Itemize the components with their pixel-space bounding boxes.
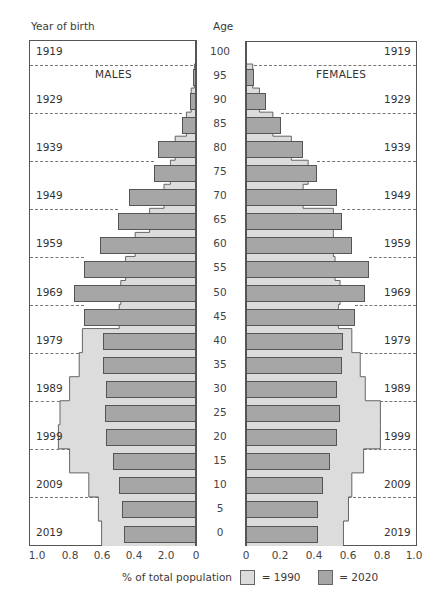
bar-female-2020 bbox=[246, 93, 266, 110]
year-of-birth-label-female: 1969 bbox=[384, 286, 411, 298]
bar-female-2020 bbox=[246, 453, 330, 470]
x-tick-male: 2.0 bbox=[151, 549, 181, 561]
legend-label-2020: = 2020 bbox=[339, 571, 378, 583]
bar-female-2020 bbox=[246, 285, 365, 302]
bar-male-2020 bbox=[124, 526, 196, 543]
bar-female-2020 bbox=[246, 357, 342, 374]
females-label: FEMALES bbox=[316, 68, 366, 80]
age-tick-label: 65 bbox=[200, 213, 240, 225]
year-of-birth-label-female: 1999 bbox=[384, 430, 411, 442]
age-tick-label: 75 bbox=[200, 165, 240, 177]
age-tick-label: 85 bbox=[200, 117, 240, 129]
x-tick-male: 0 bbox=[181, 549, 211, 561]
bar-female-2020 bbox=[246, 309, 355, 326]
age-tick-label: 40 bbox=[200, 334, 240, 346]
bar-male-2020 bbox=[158, 141, 196, 158]
year-of-birth-label-female: 1919 bbox=[384, 45, 411, 57]
age-tick-label: 70 bbox=[200, 189, 240, 201]
year-of-birth-label-female: 1949 bbox=[384, 189, 411, 201]
x-tick-male: 1.0 bbox=[22, 549, 52, 561]
bar-male-2020 bbox=[103, 357, 196, 374]
bar-male-2020 bbox=[74, 285, 196, 302]
x-tick-female: 0.4 bbox=[299, 549, 329, 561]
bar-female-2020 bbox=[246, 333, 343, 350]
bar-female-2020 bbox=[246, 477, 323, 494]
year-of-birth-label-female: 2019 bbox=[384, 526, 411, 538]
bar-female-2020 bbox=[246, 165, 317, 182]
males-label: MALES bbox=[95, 68, 132, 80]
bar-female-2020 bbox=[246, 429, 337, 446]
bar-male-2020 bbox=[106, 429, 196, 446]
x-tick-female: 0 bbox=[231, 549, 261, 561]
legend-swatch-2020 bbox=[318, 570, 333, 585]
age-tick-label: 0 bbox=[200, 526, 240, 538]
year-of-birth-label-male: 1959 bbox=[36, 237, 63, 249]
year-of-birth-label-female: 1959 bbox=[384, 237, 411, 249]
bar-female-2020 bbox=[246, 526, 318, 543]
x-tick-female: 0.6 bbox=[333, 549, 363, 561]
legend-title: % of total population bbox=[122, 571, 232, 583]
bar-female-2020 bbox=[246, 381, 337, 398]
age-tick-label: 80 bbox=[200, 141, 240, 153]
year-of-birth-label-female: 1989 bbox=[384, 382, 411, 394]
year-of-birth-label-male: 1929 bbox=[36, 93, 63, 105]
year-of-birth-label-male: 2019 bbox=[36, 526, 63, 538]
age-tick-label: 60 bbox=[200, 237, 240, 249]
bar-male-2020 bbox=[106, 381, 196, 398]
age-tick-label: 95 bbox=[200, 69, 240, 81]
age-tick-label: 20 bbox=[200, 430, 240, 442]
age-tick-label: 15 bbox=[200, 454, 240, 466]
bar-male-2020 bbox=[105, 405, 196, 422]
age-tick-label: 45 bbox=[200, 310, 240, 322]
bar-male-2020 bbox=[118, 213, 196, 230]
bar-female-2020 bbox=[246, 117, 281, 134]
x-tick-female: 0.8 bbox=[367, 549, 397, 561]
x-tick-female: 0.2 bbox=[265, 549, 295, 561]
year-of-birth-label-female: 1939 bbox=[384, 141, 411, 153]
bar-male-2020 bbox=[84, 309, 196, 326]
year-of-birth-label-male: 2009 bbox=[36, 478, 63, 490]
age-tick-label: 5 bbox=[200, 502, 240, 514]
bar-female-2020 bbox=[246, 237, 352, 254]
year-of-birth-label-male: 1949 bbox=[36, 189, 63, 201]
age-tick-label: 55 bbox=[200, 261, 240, 273]
year-of-birth-label-male: 1939 bbox=[36, 141, 63, 153]
legend-swatch-1990 bbox=[240, 570, 255, 585]
bar-male-2020 bbox=[100, 237, 196, 254]
x-tick-male: 0.8 bbox=[55, 549, 85, 561]
year-of-birth-label-male: 1989 bbox=[36, 382, 63, 394]
year-of-birth-label-female: 1929 bbox=[384, 93, 411, 105]
x-tick-male: 0.6 bbox=[87, 549, 117, 561]
bar-female-2020 bbox=[246, 261, 369, 278]
bar-male-2020 bbox=[113, 453, 196, 470]
bar-female-2020 bbox=[246, 189, 337, 206]
age-tick-label: 35 bbox=[200, 358, 240, 370]
bar-female-2020 bbox=[246, 501, 318, 518]
legend: % of total population = 1990 = 2020 bbox=[122, 570, 378, 585]
male-zero-axis bbox=[195, 41, 196, 546]
bar-female-2020 bbox=[246, 405, 340, 422]
bar-female-2020 bbox=[246, 69, 254, 86]
year-of-birth-label-male: 1979 bbox=[36, 334, 63, 346]
age-tick-label: 25 bbox=[200, 406, 240, 418]
bar-male-2020 bbox=[182, 117, 196, 134]
x-tick-female: 1.0 bbox=[399, 549, 429, 561]
age-tick-label: 50 bbox=[200, 286, 240, 298]
bar-male-2020 bbox=[122, 501, 196, 518]
age-tick-label: 10 bbox=[200, 478, 240, 490]
age-tick-label: 30 bbox=[200, 382, 240, 394]
bar-female-2020 bbox=[246, 141, 303, 158]
bar-male-2020 bbox=[119, 477, 196, 494]
age-tick-label: 100 bbox=[200, 45, 240, 57]
legend-label-1990: = 1990 bbox=[262, 571, 301, 583]
age-tick-label: 90 bbox=[200, 93, 240, 105]
female-zero-axis bbox=[246, 41, 247, 546]
year-of-birth-label-male: 1969 bbox=[36, 286, 63, 298]
bar-female-2020 bbox=[246, 213, 342, 230]
bar-male-2020 bbox=[154, 165, 196, 182]
bar-male-2020 bbox=[84, 261, 196, 278]
year-of-birth-label-male: 1919 bbox=[36, 45, 63, 57]
bar-male-2020 bbox=[103, 333, 196, 350]
x-tick-male: 0.4 bbox=[119, 549, 149, 561]
year-of-birth-label-female: 2009 bbox=[384, 478, 411, 490]
